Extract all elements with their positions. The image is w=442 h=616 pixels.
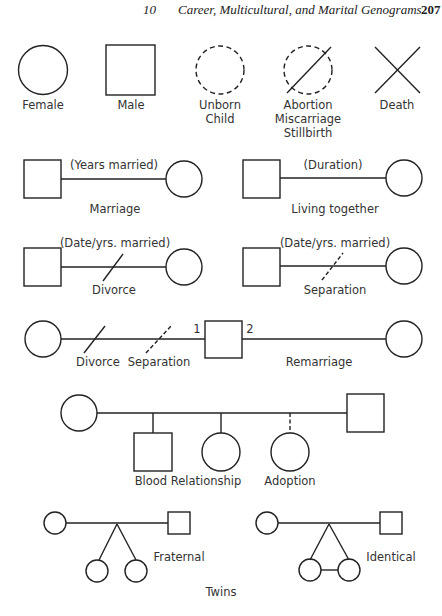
adoption-label: Adoption [264, 474, 315, 488]
children-diagram [61, 394, 384, 471]
order-2-label: 2 [246, 322, 253, 336]
marriage-label: Marriage [90, 202, 141, 216]
separation-diagram [243, 248, 422, 286]
identical-label: Identical [366, 550, 415, 564]
divorce-diagram [24, 248, 202, 286]
living-together-label: Living together [291, 202, 378, 216]
identical-twins-diagram [256, 512, 402, 581]
male-label: Male [117, 98, 144, 112]
female-symbol-icon [19, 46, 68, 95]
separation-annotation: (Date/yrs. married) [280, 236, 390, 250]
divorce-annotation: (Date/yrs. married) [60, 236, 170, 250]
marriage-annotation: (Years married) [70, 158, 158, 172]
twins-caption: Twins [205, 585, 236, 599]
remarriage-divorce-label: Divorce [76, 355, 120, 369]
death-symbol-icon [375, 47, 420, 93]
blood-relationship-label: Blood Relationship [135, 474, 242, 488]
unborn-label-1: Unborn [199, 98, 241, 112]
fraternal-label: Fraternal [153, 550, 204, 564]
divorce-label: Divorce [92, 283, 136, 297]
abortion-label-2: Miscarriage [275, 112, 341, 126]
female-label: Female [22, 98, 64, 112]
abortion-label-1: Abortion [284, 98, 333, 112]
remarriage-separation-label: Separation [128, 355, 191, 369]
fraternal-twins-diagram [44, 512, 190, 582]
remarriage-label: Remarriage [286, 355, 353, 369]
remarriage-diagram [25, 321, 422, 358]
death-label: Death [380, 98, 415, 112]
unborn-label-2: Child [205, 112, 234, 126]
abortion-symbol-icon [284, 46, 332, 94]
male-symbol-icon [106, 45, 155, 95]
genogram-diagram [0, 0, 442, 616]
separation-label: Separation [304, 283, 367, 297]
living-together-annotation: (Duration) [304, 158, 363, 172]
order-1-label: 1 [193, 322, 200, 336]
unborn-child-symbol-icon [196, 46, 244, 94]
abortion-label-3: Stillbirth [284, 126, 332, 140]
